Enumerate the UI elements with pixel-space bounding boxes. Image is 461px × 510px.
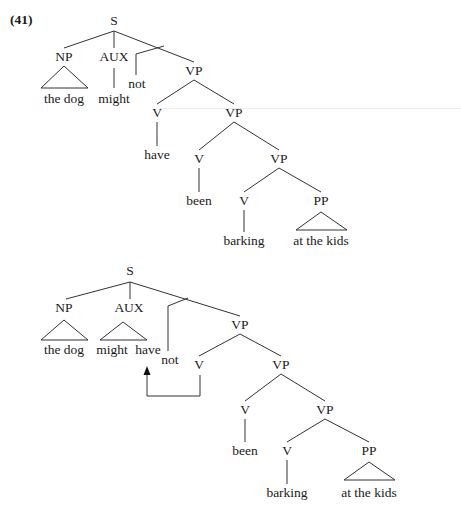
tree-node-v1: V xyxy=(194,358,204,372)
tree-node-vp3: VP xyxy=(316,403,333,417)
tree-node-vp3: VP xyxy=(270,152,287,166)
tree-node-vp1: VP xyxy=(185,64,202,78)
tree-node-might: might xyxy=(98,92,130,106)
tree-node-been: been xyxy=(186,194,211,208)
tree-node-np: NP xyxy=(55,50,72,64)
constituent-triangle xyxy=(296,212,347,230)
constituent-triangle xyxy=(344,462,395,480)
tree-node-vp2: VP xyxy=(272,358,289,372)
tree-node-atthekids: at the kids xyxy=(293,234,349,248)
tree-branch xyxy=(64,31,114,48)
tree-node-aux: AUX xyxy=(99,50,128,64)
tree-node-have: have xyxy=(144,148,169,162)
tree-branch xyxy=(157,80,194,104)
tree-branch xyxy=(168,298,188,306)
syntax-tree-figure: (41) SNPAUXnotVPthe dogmightVVPhaveVVPbe… xyxy=(0,0,461,510)
tree-node-aux: AUX xyxy=(114,301,143,315)
constituent-triangle xyxy=(41,320,88,340)
tree-branch xyxy=(199,334,240,356)
tree-branch xyxy=(66,282,130,299)
tree-node-v2: V xyxy=(240,403,250,417)
tree-branch xyxy=(136,46,164,54)
tree-node-might: might xyxy=(96,343,128,357)
tree-node-vp2: VP xyxy=(225,106,242,120)
tree-node-pp: PP xyxy=(361,444,376,458)
tree-node-s: S xyxy=(110,14,118,28)
tree-branch xyxy=(199,122,234,150)
tree-branch xyxy=(287,419,325,442)
tree-node-thedog: the dog xyxy=(44,343,84,357)
tree-branch xyxy=(194,80,234,104)
tree-node-s: S xyxy=(126,264,134,278)
tree-node-been: been xyxy=(232,444,257,458)
tree-branch xyxy=(245,374,281,401)
tree-node-v1: V xyxy=(152,106,162,120)
tree-branch xyxy=(244,168,279,192)
tree-node-barking: barking xyxy=(223,234,264,248)
tree-branch xyxy=(281,374,325,401)
tree-branch xyxy=(279,168,321,192)
tree-node-not: not xyxy=(161,353,178,367)
tree-after-movement xyxy=(41,282,395,484)
constituent-triangle xyxy=(100,322,147,340)
tree-node-pp: PP xyxy=(313,194,328,208)
tree-branches xyxy=(0,0,461,510)
tree-node-v3: V xyxy=(282,444,292,458)
tree-node-thedog: the dog xyxy=(44,92,84,106)
tree-branch xyxy=(325,419,369,442)
tree-branch xyxy=(240,334,281,356)
tree-node-barking: barking xyxy=(266,486,307,500)
movement-arrow-path xyxy=(147,372,200,396)
constituent-triangle xyxy=(41,66,88,88)
tree-node-vp1: VP xyxy=(231,318,248,332)
tree-node-np: NP xyxy=(55,301,72,315)
tree-node-v2: V xyxy=(194,152,204,166)
tree-node-have: have xyxy=(135,343,160,357)
tree-node-v3: V xyxy=(239,194,249,208)
tree-node-not: not xyxy=(128,77,145,91)
arrowhead-icon xyxy=(144,366,151,375)
tree-node-atthekids: at the kids xyxy=(341,486,397,500)
tree-branch xyxy=(234,122,279,150)
